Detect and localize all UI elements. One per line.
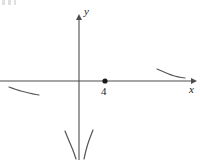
marker-group — [102, 78, 107, 83]
curve-right-branch — [157, 69, 185, 78]
curve-asymptote-right-branch — [84, 130, 93, 159]
y-axis-label: y — [84, 6, 89, 17]
curve-left-branch — [9, 87, 39, 95]
graph-figure: y x 4 — [0, 0, 200, 160]
graph-canvas — [0, 0, 200, 160]
y-axis-arrow-icon — [76, 14, 82, 20]
x-tick-label-4: 4 — [101, 86, 107, 97]
x-axis-label: x — [189, 84, 194, 95]
curve-group — [9, 69, 185, 159]
curve-asymptote-left-branch — [65, 131, 76, 159]
marked-point-dot — [102, 78, 107, 83]
axes-group — [0, 14, 197, 160]
